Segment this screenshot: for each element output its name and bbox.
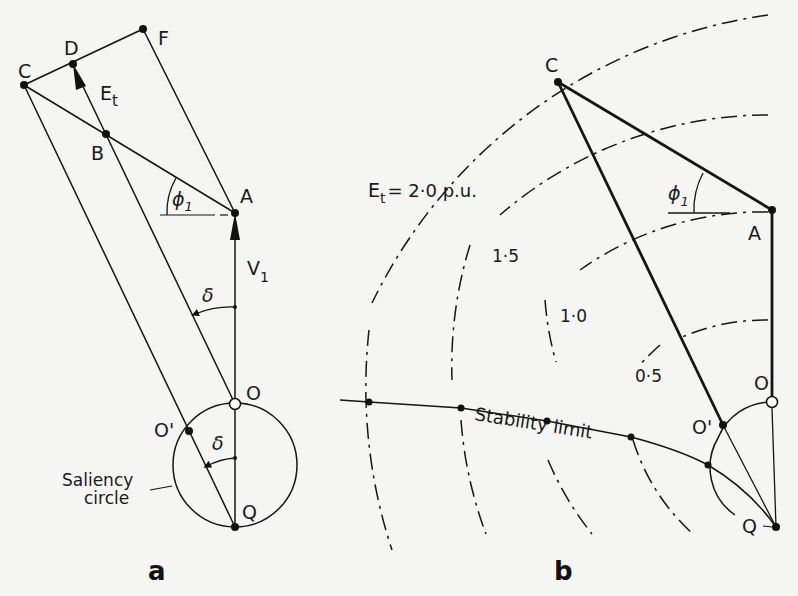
label-o-b: O: [754, 372, 769, 394]
line-o-q: [772, 408, 776, 527]
stability-point-0-5: [628, 434, 635, 441]
label-delta-upper: δ: [202, 284, 214, 306]
et-arrowhead-icon: [73, 64, 86, 90]
point-o: [230, 399, 241, 410]
point-o-prime: [185, 427, 193, 435]
contour-label-0-5: 0·5: [635, 366, 662, 386]
label-c-b: C: [545, 54, 558, 76]
label-phi1: ϕ1: [172, 188, 193, 214]
point-b: [102, 130, 110, 138]
label-o-prime-b: O': [692, 416, 712, 438]
point-c-b: [554, 78, 562, 86]
label-phi1-b: ϕ1: [668, 182, 689, 209]
stability-limit-label: Stability limit: [473, 403, 594, 442]
v1-arrowhead-icon: [230, 213, 240, 240]
label-et: Et: [100, 82, 118, 110]
point-a-b: [768, 206, 776, 214]
saliency-pointer-line: [150, 486, 172, 490]
phasor-diagram-figure: C D F B A O O' Q Et V1 ϕ1 δ δ Saliency c…: [0, 0, 798, 596]
label-et-value: Et= 2·0 p.u.: [368, 179, 477, 206]
label-a-b: A: [748, 222, 761, 244]
contour-label-1-5: 1·5: [492, 246, 519, 266]
delta-upper-arc: [195, 307, 235, 314]
label-c: C: [18, 60, 31, 82]
point-o-b: [767, 397, 778, 408]
contour-2-0: [366, 15, 768, 550]
et-contours: [366, 15, 768, 550]
saliency-label-line2: circle: [84, 488, 129, 508]
point-c: [20, 81, 28, 89]
point-q: [231, 523, 239, 531]
phi1-arc-b: [694, 173, 703, 213]
panel-a-caption: a: [148, 556, 166, 586]
point-a: [231, 209, 239, 217]
label-b: B: [91, 142, 104, 164]
point-f: [139, 25, 147, 33]
line-c-f: [24, 29, 143, 85]
panel-b: [340, 15, 776, 550]
label-delta-lower: δ: [212, 432, 224, 454]
label-q-b: Q: [742, 515, 757, 537]
panel-a-points: [20, 25, 241, 531]
label-v1: V1: [247, 257, 269, 285]
label-o-prime: O': [154, 419, 174, 441]
label-q: Q: [242, 501, 257, 523]
label-a: A: [240, 185, 253, 207]
diagram-canvas: C D F B A O O' Q Et V1 ϕ1 δ δ Saliency c…: [0, 0, 798, 596]
point-q-b: [772, 523, 780, 531]
point-o-prime-b: [719, 421, 727, 429]
point-d: [69, 60, 77, 68]
et-vector-line: [78, 76, 235, 404]
label-d: D: [64, 37, 79, 59]
contour-label-1-0: 1·0: [560, 306, 587, 326]
panel-b-points: [366, 78, 781, 531]
saliency-label-line1: Saliency: [62, 470, 133, 490]
panel-b-caption: b: [554, 556, 573, 586]
label-o: O: [246, 382, 261, 404]
delta-lower-arc: [207, 458, 235, 466]
stability-point-1-5: [458, 405, 465, 412]
label-f: F: [158, 27, 169, 49]
stability-point-2-0: [366, 399, 373, 406]
panel-a-labels: C D F B A O O' Q Et V1 ϕ1 δ δ Saliency c…: [18, 27, 269, 523]
stability-point-saliency: [705, 462, 712, 469]
